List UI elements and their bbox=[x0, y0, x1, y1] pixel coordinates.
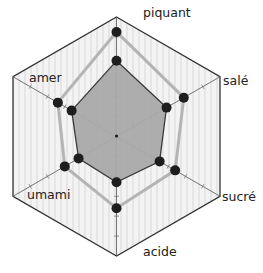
axis-label-acide: acide bbox=[143, 244, 177, 259]
data-point-inner-3 bbox=[112, 177, 122, 187]
axis-label-piquant: piquant bbox=[143, 5, 191, 20]
axis-label-sucre: sucré bbox=[222, 189, 256, 204]
axis-label-amer: amer bbox=[29, 70, 63, 85]
center-point bbox=[115, 134, 118, 137]
data-point-outer-0 bbox=[112, 27, 122, 37]
data-point-outer-1 bbox=[179, 93, 189, 103]
data-point-outer-2 bbox=[170, 165, 180, 175]
axis-label-umami: umami bbox=[27, 187, 70, 202]
data-point-inner-2 bbox=[155, 156, 165, 166]
data-point-outer-4 bbox=[60, 161, 70, 171]
data-point-inner-5 bbox=[67, 106, 77, 116]
data-point-outer-3 bbox=[112, 203, 122, 213]
data-point-inner-4 bbox=[74, 153, 84, 163]
radar-chart: piquant salé sucré acide umami amer bbox=[0, 0, 263, 273]
axis-label-sale: salé bbox=[223, 73, 249, 88]
data-point-outer-5 bbox=[53, 98, 63, 108]
data-point-inner-1 bbox=[162, 103, 172, 113]
data-point-inner-0 bbox=[112, 56, 122, 66]
